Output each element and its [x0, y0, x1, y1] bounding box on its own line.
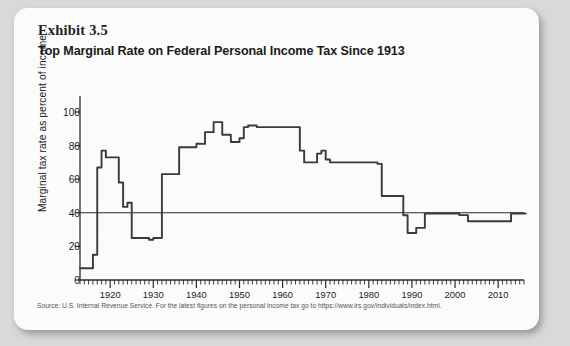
x-tick-label: 1970: [315, 289, 336, 300]
x-tick-label: 1960: [272, 289, 293, 300]
exhibit-card: Exhibit 3.5 Top Marginal Rate on Federal…: [14, 8, 539, 330]
y-tick-label: 40: [54, 207, 80, 218]
y-tick-label: 20: [54, 241, 80, 252]
screenshot-root: Exhibit 3.5 Top Marginal Rate on Federal…: [0, 0, 570, 346]
y-axis-label: Marginal tax rate as percent of income: [37, 34, 48, 214]
y-tick-label: 100: [54, 107, 80, 118]
line-chart-plot: [14, 8, 539, 330]
x-tick-label: 1980: [358, 289, 379, 300]
x-tick-label: 1930: [143, 289, 164, 300]
x-tick-label: 2010: [488, 289, 509, 300]
x-tick-label: 2000: [445, 289, 466, 300]
chart-area: Marginal tax rate as percent of income 0…: [14, 8, 539, 330]
x-tick-label: 1920: [100, 289, 121, 300]
x-tick-label: 1990: [401, 289, 422, 300]
y-tick-label: 0: [54, 275, 80, 286]
y-axis-tick-labels: 020406080100: [52, 8, 80, 330]
y-tick-label: 60: [54, 174, 80, 185]
source-note: Source: U.S. Internal Revenue Service. F…: [37, 302, 527, 309]
x-tick-label: 1940: [186, 289, 207, 300]
x-tick-label: 1950: [229, 289, 250, 300]
y-tick-label: 80: [54, 140, 80, 151]
